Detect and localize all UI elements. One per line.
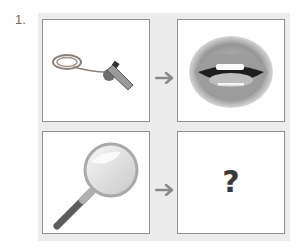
question-mark: ? [178, 164, 284, 199]
whistle-icon [43, 20, 149, 121]
panel-answer: ? [177, 131, 285, 234]
panel-whistle [42, 19, 150, 122]
mouth-icon [178, 20, 284, 121]
magnifying-glass-icon [43, 132, 149, 233]
arrow-right-icon [155, 72, 175, 84]
question-number: 1. [15, 12, 26, 27]
analogy-frame: ? [38, 13, 290, 241]
arrow-right-icon [155, 184, 175, 196]
panel-magnifier [42, 131, 150, 234]
panel-mouth [177, 19, 285, 122]
